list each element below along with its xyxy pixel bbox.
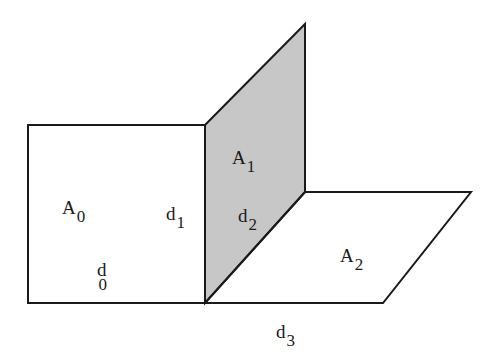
label-d1-sub: 1 [177,213,186,232]
label-d0: d0 [97,260,107,279]
diagram-canvas: A0 A1 A2 d0 d1 d2 d3 [0,0,493,364]
label-d3-base: d [276,321,286,342]
label-d0-sub: 0 [99,275,108,294]
label-d2-base: d [238,205,248,226]
label-a0: A0 [62,198,85,217]
label-a0-sub: 0 [77,207,86,226]
label-a0-base: A [62,197,76,218]
label-a2: A2 [340,246,363,265]
planes-figure [0,0,493,364]
label-d1-base: d [166,203,176,224]
label-d2-sub: 2 [249,215,258,234]
label-d3-sub: 3 [287,331,296,350]
label-d3: d3 [276,322,295,341]
label-a1-base: A [232,147,246,168]
label-a1: A1 [232,148,255,167]
label-d2: d2 [238,206,257,225]
label-a1-sub: 1 [247,157,256,176]
label-d1: d1 [166,204,185,223]
label-a2-base: A [340,245,354,266]
label-a2-sub: 2 [355,255,364,274]
